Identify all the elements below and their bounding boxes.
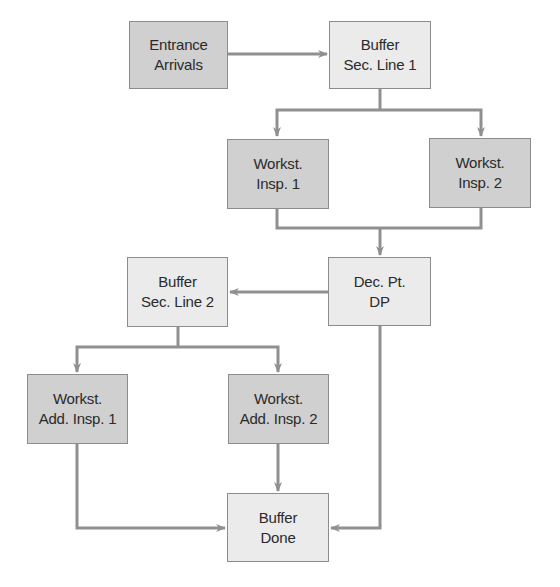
node-workst-add-insp-2: Workst. Add. Insp. 2: [228, 374, 329, 444]
node-label-line2: Insp. 2: [458, 173, 502, 193]
edge-addinsp1-to-done: [77, 443, 225, 528]
edge-insp2-merge: [380, 207, 481, 228]
node-label-line1: Workst.: [253, 154, 302, 174]
node-label-line2: Sec. Line 1: [344, 55, 417, 75]
node-buffer-sec-line-2: Buffer Sec. Line 2: [127, 257, 228, 327]
node-label-line1: Entrance: [149, 35, 207, 55]
node-label-line1: Buffer: [361, 35, 400, 55]
node-label-line1: Buffer: [259, 508, 298, 528]
node-workst-add-insp-1: Workst. Add. Insp. 1: [27, 374, 128, 444]
node-label-line1: Buffer: [158, 272, 197, 292]
node-label-line2: DP: [369, 292, 389, 312]
node-label-line1: Workst.: [254, 389, 303, 409]
node-entrance-arrivals: Entrance Arrivals: [129, 21, 228, 89]
edge-insp1-merge: [277, 208, 380, 228]
node-label-line1: Dec. Pt.: [354, 272, 406, 292]
node-label-line2: Add. Insp. 2: [240, 409, 318, 429]
node-workst-insp-2: Workst. Insp. 2: [429, 138, 531, 208]
node-label-line2: Arrivals: [154, 55, 202, 75]
node-label-line2: Sec. Line 2: [141, 292, 214, 312]
node-label-line2: Done: [260, 528, 295, 548]
node-label-line2: Insp. 1: [256, 174, 300, 194]
edge-buffer1-to-insp1: [277, 110, 380, 136]
node-label-line1: Workst.: [455, 153, 504, 173]
edge-buffer2-to-addinsp2: [178, 347, 278, 372]
node-decision-point: Dec. Pt. DP: [328, 257, 431, 326]
node-workst-insp-1: Workst. Insp. 1: [227, 139, 329, 209]
flowchart-canvas: Entrance Arrivals Buffer Sec. Line 1 Wor…: [0, 0, 560, 587]
node-label-line1: Workst.: [53, 389, 102, 409]
edge-buffer1-to-insp2: [380, 110, 481, 136]
edge-buffer2-to-addinsp1: [77, 347, 178, 372]
node-buffer-sec-line-1: Buffer Sec. Line 1: [329, 21, 431, 89]
edge-decision-to-done: [331, 325, 380, 528]
node-buffer-done: Buffer Done: [227, 493, 329, 562]
node-label-line2: Add. Insp. 1: [39, 409, 117, 429]
